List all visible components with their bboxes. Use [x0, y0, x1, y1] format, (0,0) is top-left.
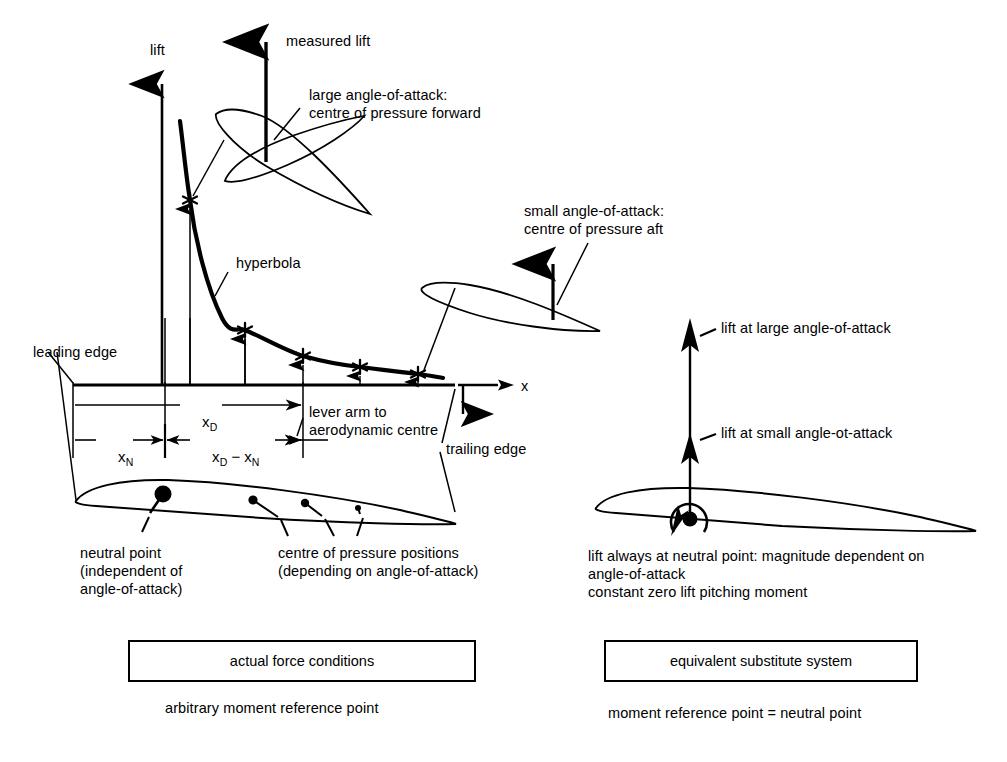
small-aoa-label-line2: centre of pressure aft	[524, 221, 663, 238]
left-summary-box: actual force conditions	[128, 640, 476, 682]
neutral-point-caption-line3: angle-of-attack)	[80, 581, 182, 598]
trailing-edge-label: trailing edge	[446, 441, 526, 458]
cp-positions-caption-line2: (depending on angle-of-attack)	[278, 563, 479, 580]
lever-arm-label-line2: aerodynamic centre	[309, 422, 438, 439]
large-aoa-label-line2: centre of pressure forward	[309, 105, 481, 122]
diagram-canvas: lift x hyperbola measured lift large ang…	[0, 0, 1007, 762]
xN-subscript: N	[126, 456, 134, 468]
x-axis-label: x	[521, 378, 528, 395]
airfoil-right-substitute	[596, 488, 976, 531]
hyperbola-label: hyperbola	[236, 255, 301, 272]
cp-caption-leaders	[142, 517, 363, 536]
right-label-leaders	[700, 329, 716, 440]
right-lift-arrow-stack	[681, 318, 699, 520]
right-note-line3: constant zero lift pitching moment	[588, 584, 807, 601]
minus-operator: −	[227, 448, 244, 465]
right-note-line2: angle-of-attack	[588, 566, 685, 583]
lift-large-aoa-label: lift at large angle-of-attack	[721, 320, 891, 337]
lift-small-aoa-label: lift at small angle-ot-attack	[721, 425, 892, 442]
hyperbola-curve	[180, 121, 443, 378]
xN-base: x	[118, 448, 126, 465]
large-aoa-label-line1: large angle-of-attack:	[309, 87, 447, 104]
xD-base: x	[202, 413, 210, 430]
xN2-base: x	[244, 448, 252, 465]
xD2-base: x	[212, 448, 220, 465]
x-axis	[73, 385, 463, 414]
neutral-point-caption-line2: (independent of	[80, 563, 182, 580]
left-summary-caption: arbitrary moment reference point	[165, 700, 379, 717]
right-note-line1: lift always at neutral point: magnitude …	[588, 548, 925, 565]
right-summary-box-label: equivalent substitute system	[670, 653, 852, 669]
xN2-subscript: N	[252, 456, 260, 468]
right-summary-box: equivalent substitute system	[604, 640, 918, 682]
lift-axis-label: lift	[150, 42, 165, 59]
dimension-label-xN: xN	[101, 431, 133, 488]
right-summary-caption: moment reference point = neutral point	[608, 705, 861, 722]
cp-positions-caption-line1: centre of pressure positions	[278, 545, 459, 562]
x-axis-arrowhead	[458, 380, 514, 391]
measured-lift-label: measured lift	[286, 33, 370, 50]
left-summary-box-label: actual force conditions	[230, 653, 374, 669]
lever-arm-label-line1: lever arm to	[309, 404, 387, 421]
leading-edge-label: leading edge	[33, 344, 117, 361]
small-aoa-label-line1: small angle-of-attack:	[524, 203, 664, 220]
dimension-label-xD-minus-xN: xD−xN	[195, 431, 260, 488]
neutral-point-caption-line1: neutral point	[80, 545, 161, 562]
